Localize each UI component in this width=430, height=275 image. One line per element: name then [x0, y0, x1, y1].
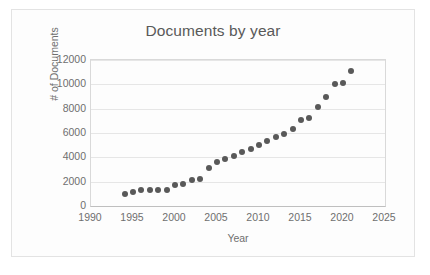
data-point: [214, 159, 220, 165]
data-point: [348, 68, 354, 74]
gridline: [91, 109, 385, 110]
x-axis-tick-label: 2000: [152, 211, 196, 223]
x-axis-tick-label: 1995: [110, 211, 154, 223]
plot-area: [90, 59, 386, 207]
data-point: [281, 131, 287, 137]
x-axis-tick-label: 2015: [278, 211, 322, 223]
y-axis-tick-label: 12000: [26, 53, 86, 65]
chart-title: Documents by year: [12, 22, 414, 40]
x-axis-tick-labels: 19901995200020052010201520202025: [90, 211, 386, 225]
data-point: [206, 165, 212, 171]
y-axis-tick-label: 6000: [26, 126, 86, 138]
data-point: [323, 94, 329, 100]
data-point: [248, 146, 254, 152]
data-point: [290, 126, 296, 132]
y-axis-tick-label: 8000: [26, 102, 86, 114]
data-point: [340, 80, 346, 86]
y-axis-tick-label: 2000: [26, 175, 86, 187]
data-point: [172, 182, 178, 188]
data-point: [239, 149, 245, 155]
gridline: [91, 157, 385, 158]
gridline: [91, 182, 385, 183]
gridline: [91, 60, 385, 61]
data-point: [155, 187, 161, 193]
data-point: [256, 142, 262, 148]
x-axis-tick-label: 2020: [320, 211, 364, 223]
data-point: [332, 81, 338, 87]
x-axis-tick-label: 1990: [68, 211, 112, 223]
y-axis-tick-label: 0: [26, 199, 86, 211]
data-point: [189, 177, 195, 183]
data-point: [306, 115, 312, 121]
data-point: [164, 187, 170, 193]
data-point: [273, 134, 279, 140]
data-point: [180, 181, 186, 187]
y-axis-tick-label: 10000: [26, 77, 86, 89]
gridline: [91, 133, 385, 134]
x-axis-tick-label: 2010: [236, 211, 280, 223]
data-point: [122, 191, 128, 197]
data-point: [298, 117, 304, 123]
data-point: [222, 156, 228, 162]
data-point: [147, 187, 153, 193]
chart-container: Documents by year # of Documents 0200040…: [11, 9, 415, 257]
x-axis-tick-label: 2005: [194, 211, 238, 223]
y-axis-tick-label: 4000: [26, 150, 86, 162]
data-point: [315, 104, 321, 110]
data-point: [138, 187, 144, 193]
x-axis-tick-label: 2025: [362, 211, 406, 223]
x-axis-title: Year: [90, 232, 386, 244]
data-point: [130, 189, 136, 195]
data-point: [264, 138, 270, 144]
y-axis-tick-labels: 020004000600080001000012000: [20, 59, 86, 207]
data-point: [231, 153, 237, 159]
